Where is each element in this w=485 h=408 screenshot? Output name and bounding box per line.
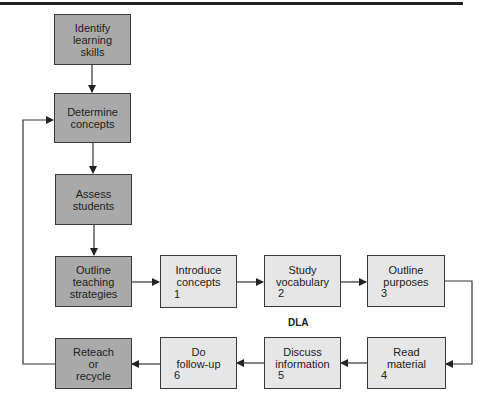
box-text: students [73, 200, 115, 212]
box-text: Discuss [265, 346, 340, 358]
box-text: skills [81, 46, 105, 58]
box-text: material [368, 358, 445, 370]
step-number: 3 [381, 287, 387, 299]
box-text: Identify [75, 22, 110, 34]
box-text: Reteach [73, 346, 114, 358]
box-text: teaching [73, 276, 115, 288]
box-text: information [265, 358, 340, 370]
box-determine-concepts: Determine concepts [54, 93, 131, 143]
box-text: Do [161, 346, 236, 358]
box-text: Outline [368, 264, 444, 276]
box-text: Read [368, 346, 445, 358]
box-text: strategies [70, 288, 118, 300]
box-discuss-information: Discuss information 5 [264, 337, 341, 389]
box-text: Outline [76, 264, 111, 276]
box-text: learning [73, 34, 112, 46]
box-identify-learning-skills: Identify learning skills [54, 14, 131, 65]
box-text: vocabulary [265, 276, 340, 288]
step-number: 2 [278, 287, 284, 299]
box-text: Determine [67, 106, 118, 118]
box-text: Study [265, 264, 340, 276]
box-introduce-concepts: Introduce concepts 1 [160, 255, 237, 308]
box-assess-students: Assess students [55, 174, 132, 225]
box-text: or [89, 358, 99, 370]
box-study-vocabulary: Study vocabulary 2 [264, 255, 341, 307]
box-text: Assess [76, 188, 111, 200]
box-text: purposes [368, 276, 444, 288]
box-text: concepts [70, 118, 114, 130]
box-outline-purposes: Outline purposes 3 [367, 255, 445, 307]
box-text: Introduce [161, 264, 236, 276]
box-read-material: Read material 4 [367, 337, 446, 389]
box-text: concepts [161, 276, 236, 288]
box-text: follow-up [161, 358, 236, 370]
box-outline-teaching-strategies: Outline teaching strategies [55, 256, 132, 307]
dla-label: DLA [288, 317, 309, 328]
box-text: recycle [76, 370, 111, 382]
box-reteach-or-recycle: Reteach or recycle [55, 338, 132, 389]
box-do-follow-up: Do follow-up 6 [160, 337, 237, 389]
step-number: 5 [278, 369, 284, 381]
step-number: 1 [174, 288, 180, 300]
step-number: 4 [381, 369, 387, 381]
step-number: 6 [174, 369, 180, 381]
